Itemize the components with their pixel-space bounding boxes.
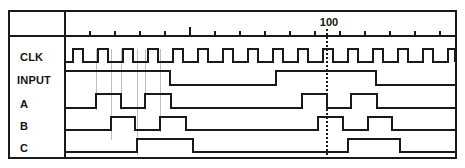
- waveform-b: [65, 117, 455, 130]
- waveform-c: [65, 139, 455, 152]
- signal-label-a: A: [20, 98, 28, 110]
- signal-label-clk: CLK: [20, 51, 43, 63]
- time-axis-ticks: [65, 27, 440, 36]
- signal-label-column: CLKINPUTABC: [17, 51, 51, 154]
- waveform-clk: [65, 49, 455, 62]
- waveform-a: [65, 94, 455, 108]
- signal-label-b: B: [20, 120, 28, 132]
- signal-label-c: C: [20, 142, 28, 154]
- timing-diagram-canvas: CLKINPUTABC 100: [0, 0, 465, 168]
- timing-diagram-screenshot: CLKINPUTABC 100: [0, 0, 465, 168]
- waveform-traces: [65, 49, 455, 152]
- axis-marker-labels: 100: [320, 16, 338, 28]
- waveform-input: [65, 71, 455, 85]
- signal-label-input: INPUT: [17, 74, 51, 86]
- axis-marker-label-100: 100: [320, 16, 338, 28]
